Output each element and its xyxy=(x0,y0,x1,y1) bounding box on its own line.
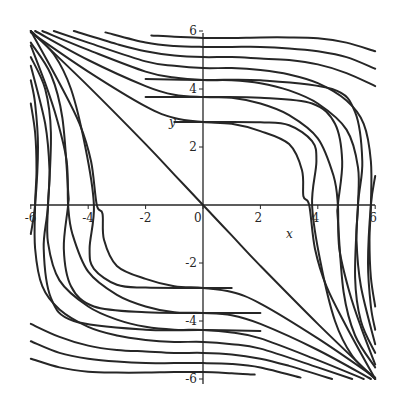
y-tick-label: -6 xyxy=(185,372,197,386)
y-axis-label: y xyxy=(168,115,176,129)
x-tick-label: 2 xyxy=(254,211,262,225)
curve-7-line xyxy=(151,35,375,51)
level-curve-plot: -6-4-20246 642-2-4-6 x y xyxy=(0,0,402,410)
y-tick-label: -2 xyxy=(185,256,197,270)
left-1-mirror-line xyxy=(174,122,375,379)
left-2-mirror-line xyxy=(146,97,376,367)
x-tick-label: 6 xyxy=(369,211,377,225)
y-tick-label: 4 xyxy=(189,82,197,96)
curve-4-line xyxy=(54,31,375,307)
y-tick-label: 6 xyxy=(189,24,197,38)
x-tick-label: -6 xyxy=(25,211,37,225)
y-tick-label: -4 xyxy=(185,314,197,328)
curve-7-mirror-line xyxy=(31,359,255,375)
y-tick-label: 2 xyxy=(189,140,197,154)
left-2-line xyxy=(31,43,261,313)
x-tick-label: -4 xyxy=(82,211,94,225)
left-4-mirror-line xyxy=(368,176,375,330)
x-tick-label: -2 xyxy=(140,211,152,225)
left-1-line xyxy=(31,31,232,288)
x-axis-label: x xyxy=(286,227,293,241)
x-tick-label: 0 xyxy=(194,211,202,225)
x-tick-label: 4 xyxy=(312,211,320,225)
x-ticks: -6-4-20246 xyxy=(25,205,377,225)
